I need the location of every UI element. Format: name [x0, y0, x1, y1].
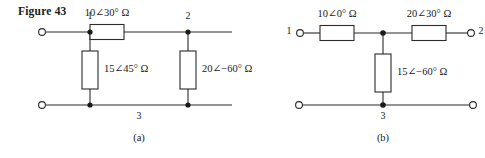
node-dot-a-1: [87, 29, 92, 34]
label-b-series-right-z: 20∠30° Ω: [407, 8, 452, 19]
subfigure-a: 10∠30° Ω 15∠45° Ω 20∠−60° Ω 1 2 3 (a): [39, 7, 253, 144]
node-label-a-3: 3: [137, 110, 142, 121]
component-a-shunt-left-z: [82, 51, 98, 89]
node-label-b-1: 1: [287, 25, 292, 36]
label-a-shunt-right-z: 20∠−60° Ω: [202, 63, 253, 74]
node-label-b-2: 2: [479, 25, 484, 36]
component-a-series-z: [90, 25, 124, 40]
label-a-shunt-left-z: 15∠45° Ω: [104, 63, 149, 74]
label-b-shunt-z: 15∠−60° Ω: [397, 66, 448, 77]
node-dot-b-mid-top: [380, 30, 386, 36]
subfigure-b: 10∠0° Ω 20∠30° Ω 15∠−60° Ω 1 2 3 (b): [287, 8, 484, 144]
terminal-b-2: [468, 30, 475, 37]
figure-container: Figure 43: [0, 0, 485, 158]
terminal-b-1: [297, 30, 304, 37]
node-dot-a-3-right: [185, 102, 190, 107]
component-a-shunt-right-z: [180, 51, 196, 89]
caption-a: (a): [133, 132, 145, 144]
terminal-b-bottom-left: [296, 102, 303, 109]
circuit-diagram: 10∠30° Ω 15∠45° Ω 20∠−60° Ω 1 2 3 (a): [0, 0, 485, 158]
terminal-a-top-left: [39, 29, 46, 36]
terminal-a-bottom-left: [39, 102, 46, 109]
label-b-series-left-z: 10∠0° Ω: [317, 8, 356, 19]
node-dot-a-3-left: [87, 102, 92, 107]
node-dot-b-3: [380, 102, 386, 108]
caption-b: (b): [377, 132, 390, 144]
node-label-b-3: 3: [381, 110, 386, 121]
component-b-series-right-z: [412, 26, 446, 41]
component-b-series-left-z: [320, 26, 354, 41]
terminal-b-bottom-right: [470, 102, 477, 109]
component-b-shunt-z: [375, 54, 391, 92]
node-label-a-2: 2: [186, 10, 191, 21]
node-label-a-1: 1: [88, 10, 93, 21]
node-dot-a-2: [185, 29, 190, 34]
